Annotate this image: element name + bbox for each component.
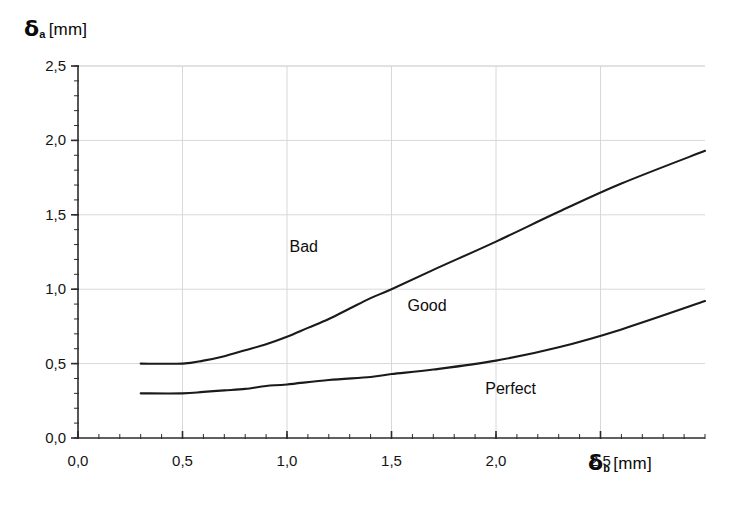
region-label-bad: Bad <box>289 238 317 256</box>
curve-upper-boundary <box>141 151 705 364</box>
y-tick-label: 0,5 <box>24 355 66 372</box>
plot-area <box>0 0 737 511</box>
region-label-good: Good <box>407 297 446 315</box>
x-tick-label: 1,0 <box>265 452 309 469</box>
minor-tick-marks <box>74 66 705 439</box>
x-tick-label: 2,0 <box>474 452 518 469</box>
x-tick-label: 2,5 <box>579 452 623 469</box>
y-tick-label: 1,5 <box>24 206 66 223</box>
x-tick-label: 0,5 <box>161 452 205 469</box>
chart-figure: δa[mm] δb[mm] 0,00,51,01,52,02,50,00,51,… <box>0 0 737 511</box>
y-tick-label: 1,0 <box>24 280 66 297</box>
y-tick-label: 0,0 <box>24 429 66 446</box>
y-tick-label: 2,0 <box>24 131 66 148</box>
data-curves <box>141 151 705 394</box>
y-tick-label: 2,5 <box>24 57 66 74</box>
region-label-perfect: Perfect <box>485 380 536 398</box>
gridlines <box>78 66 705 438</box>
x-tick-label: 0,0 <box>56 452 100 469</box>
x-tick-label: 1,5 <box>370 452 414 469</box>
